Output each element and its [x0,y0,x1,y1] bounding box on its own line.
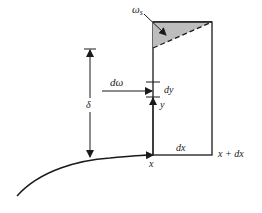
surface-arrow [140,155,153,156]
d-omega-label: dω [110,76,124,88]
boundary-layer-diagram: ωs δ dω dy y x dx x + dx [0,0,262,213]
dy-label: dy [164,84,174,95]
omega-s-label: ωs [132,3,143,17]
y-label: y [159,99,165,110]
dx-label: dx [176,142,186,153]
wall-surface-curve [17,155,153,196]
delta-label: δ [86,99,91,110]
x-label: x [148,158,154,169]
x-plus-dx-label: x + dx [217,148,244,159]
